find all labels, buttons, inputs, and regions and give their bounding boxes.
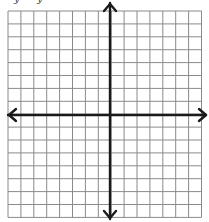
coordinate-plane [0, 0, 209, 222]
axes [8, 3, 206, 219]
